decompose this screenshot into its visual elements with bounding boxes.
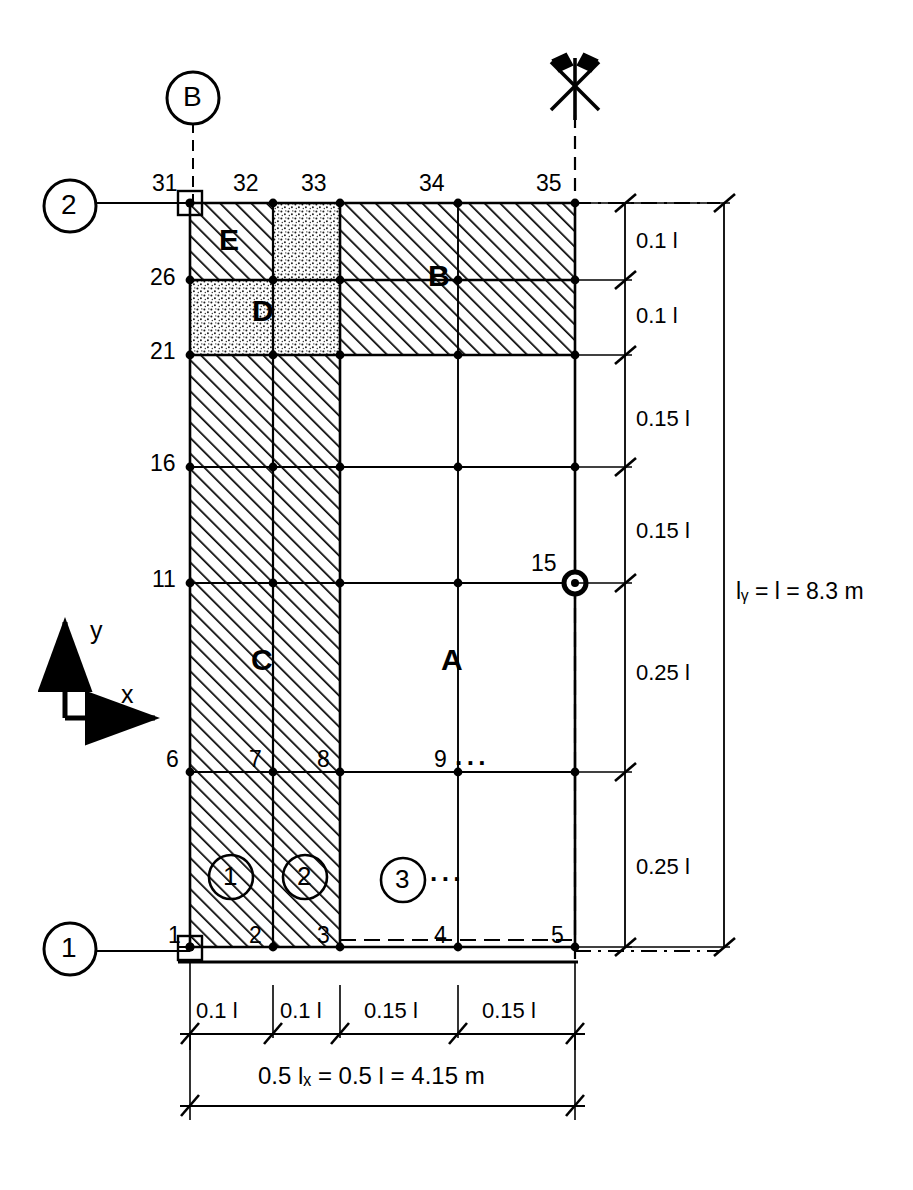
node-number-6: 6 [166,748,179,771]
element-number-1: 1 [223,863,237,889]
node-number-8: 8 [317,748,330,771]
horizontal-dimension-4: 0.15 l [482,1000,536,1022]
horizontal-dimension-3: 0.15 l [364,1000,418,1022]
cell-fills [190,203,575,947]
diagram-canvas: B 2 1 31 32 33 34 35 26 21 16 11 15 6 7 … [0,0,913,1190]
ellipsis-row-9: ··· [455,750,490,776]
zone-label-E: E [219,225,239,255]
grid-bubble-label-1: 1 [61,934,77,962]
vertical-dimension-5: 0.25 l [636,662,690,684]
node-number-32: 32 [233,172,259,195]
node-number-34: 34 [419,172,445,195]
node-number-3: 3 [317,924,330,947]
element-number-2: 2 [297,863,311,889]
zone-label-D: D [252,296,274,326]
zone-label-C: C [251,645,273,675]
ellipsis-row-3: ··· [430,866,465,892]
node-number-4: 4 [434,924,447,947]
grid-bubble-label-B: B [183,83,202,111]
node-number-26: 26 [150,266,176,289]
node-number-33: 33 [301,172,327,195]
axis-label-y: y [90,618,103,643]
node-number-16: 16 [150,452,176,475]
horizontal-dimension-2: 0.1 l [280,1000,322,1022]
node-number-5: 5 [551,924,564,947]
vertical-dimension-4: 0.15 l [636,520,690,542]
bottom-support-edge [178,947,578,962]
vertical-dimension-2: 0.1 l [636,305,678,327]
node-number-11: 11 [152,568,176,591]
node-number-9: 9 [434,748,447,771]
zone-label-B: B [428,261,450,291]
zone-label-A: A [441,645,463,675]
vertical-dimension-1: 0.1 l [636,230,678,252]
node-number-7: 7 [249,748,262,771]
vertical-dimension-3: 0.15 l [636,408,690,430]
node-number-35: 35 [536,172,562,195]
node-number-1: 1 [168,924,181,947]
overall-vertical-dimension: lᵧ = l = 8.3 m [736,580,864,603]
node-number-15: 15 [531,552,557,575]
horizontal-dimension-1: 0.1 l [196,1000,238,1022]
node-number-21: 21 [150,340,176,363]
coordinate-axes-icon [65,622,155,718]
grid-bubble-label-2: 2 [61,191,77,219]
overall-horizontal-dimension: 0.5 lₓ = 0.5 l = 4.15 m [258,1064,485,1088]
symmetry-axis-icon [551,54,599,120]
vertical-dimension-6: 0.25 l [636,856,690,878]
node-number-2: 2 [249,924,262,947]
axis-label-x: x [121,682,134,707]
element-number-3: 3 [395,866,409,892]
node-number-31: 31 [152,172,178,195]
horizontal-dimension-chain [180,962,585,1120]
